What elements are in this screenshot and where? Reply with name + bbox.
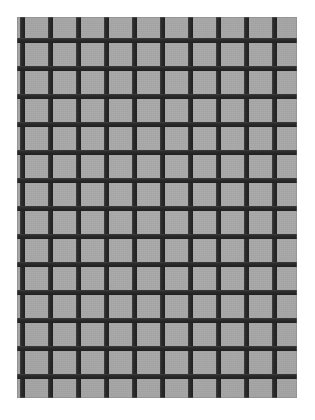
grid-line-horizontal-3 <box>17 94 297 99</box>
grid-line-horizontal-6 <box>17 178 297 183</box>
grid-line-horizontal-5 <box>17 150 297 155</box>
grid-line-horizontal-4 <box>17 122 297 127</box>
grid-line-horizontal-9 <box>17 262 297 267</box>
gray-background-field <box>17 17 297 398</box>
grid-pattern-image <box>0 0 315 420</box>
grid-line-horizontal-12 <box>17 346 297 351</box>
grid-line-horizontal-10 <box>17 290 297 295</box>
grid-line-horizontal-1 <box>17 38 297 43</box>
grid-line-horizontal-8 <box>17 234 297 239</box>
grid-line-horizontal-2 <box>17 66 297 71</box>
grid-line-horizontal-11 <box>17 318 297 323</box>
grid-line-horizontal-13 <box>17 374 297 379</box>
grid-line-horizontal-7 <box>17 206 297 211</box>
